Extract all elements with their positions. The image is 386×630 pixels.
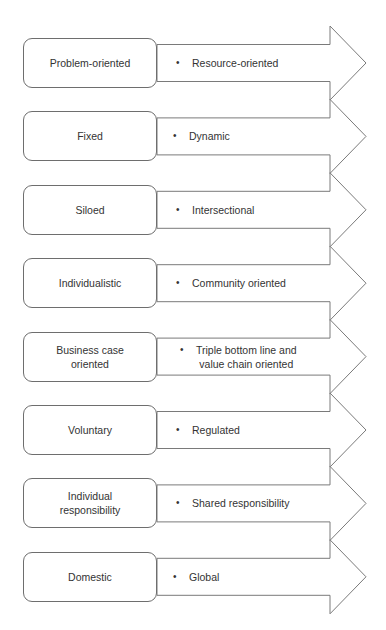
to-label-text: Intersectional	[192, 203, 254, 217]
from-label-box: Problem-oriented	[23, 38, 157, 88]
bullet-icon: •	[176, 276, 192, 290]
from-label-box: Voluntary	[23, 405, 157, 455]
to-label-text: Community oriented	[192, 276, 286, 290]
to-label: •Dynamic	[173, 118, 333, 154]
bullet-icon: •	[180, 343, 196, 357]
bullet-icon: •	[173, 129, 189, 143]
to-label: •Global	[173, 559, 333, 595]
bullet-icon: •	[176, 56, 192, 70]
bullet-icon: •	[173, 570, 189, 584]
from-label-box: Business case oriented	[23, 332, 157, 382]
diagram-canvas	[0, 0, 386, 630]
to-label: •Community oriented	[176, 265, 336, 301]
to-label-text: Shared responsibility	[192, 496, 289, 510]
from-label-box: Individualistic	[23, 258, 157, 308]
bullet-icon: •	[176, 496, 192, 510]
from-label-box: Fixed	[23, 111, 157, 161]
to-label-text: Triple bottom line and value chain orien…	[196, 343, 297, 371]
to-label-text: Resource-oriented	[192, 56, 278, 70]
from-label-box: Domestic	[23, 552, 157, 602]
to-label-text: Dynamic	[189, 129, 230, 143]
bullet-icon: •	[176, 423, 192, 437]
to-label: •Shared responsibility	[176, 485, 336, 521]
from-label-box: Siloed	[23, 185, 157, 235]
bullet-icon: •	[176, 203, 192, 217]
to-label: •Regulated	[176, 412, 336, 448]
to-label-text: Global	[189, 570, 219, 584]
from-label-box: Individual responsibility	[23, 478, 157, 528]
to-label: •Resource-oriented	[176, 45, 336, 81]
to-label: •Intersectional	[176, 192, 336, 228]
to-label-text: Regulated	[192, 423, 240, 437]
to-label: •Triple bottom line and value chain orie…	[180, 339, 340, 375]
